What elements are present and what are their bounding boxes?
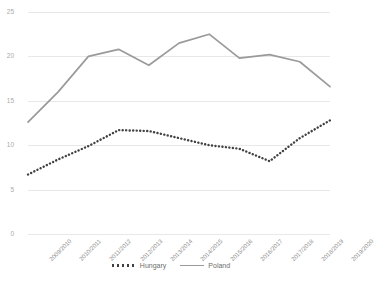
y-tick-label: 0: [0, 231, 14, 238]
x-tick-label: 2015/2016: [229, 238, 253, 262]
legend-swatch-poland-icon: [180, 265, 204, 267]
x-tick-label: 2017/2018: [290, 238, 314, 262]
plot-area: 0510152025: [28, 12, 330, 234]
series-layer: [28, 12, 330, 234]
y-tick-label: 15: [0, 98, 14, 105]
x-tick-label: 2019/2020: [350, 238, 374, 262]
legend-label: Hungary: [140, 262, 166, 269]
x-tick-label: 2018/2019: [320, 238, 344, 262]
series-line-poland: [28, 34, 330, 122]
y-tick-label: 10: [0, 142, 14, 149]
y-tick-label: 25: [0, 9, 14, 16]
legend-item-hungary[interactable]: Hungary: [112, 262, 166, 269]
x-tick-label: 2010/2011: [78, 238, 102, 262]
legend-label: Poland: [208, 262, 230, 269]
legend-swatch-hungary-icon: [112, 264, 136, 267]
chart-legend: HungaryPoland: [0, 262, 342, 269]
series-line-hungary: [28, 120, 330, 174]
y-tick-label: 20: [0, 53, 14, 60]
x-tick-label: 2016/2017: [260, 238, 284, 262]
x-tick-label: 2009/2010: [48, 238, 72, 262]
x-tick-label: 2013/2014: [169, 238, 193, 262]
legend-item-poland[interactable]: Poland: [180, 262, 230, 269]
x-tick-label: 2014/2015: [199, 238, 223, 262]
x-tick-label: 2012/2013: [139, 238, 163, 262]
x-tick-label: 2011/2012: [109, 238, 133, 262]
y-tick-label: 5: [0, 186, 14, 193]
